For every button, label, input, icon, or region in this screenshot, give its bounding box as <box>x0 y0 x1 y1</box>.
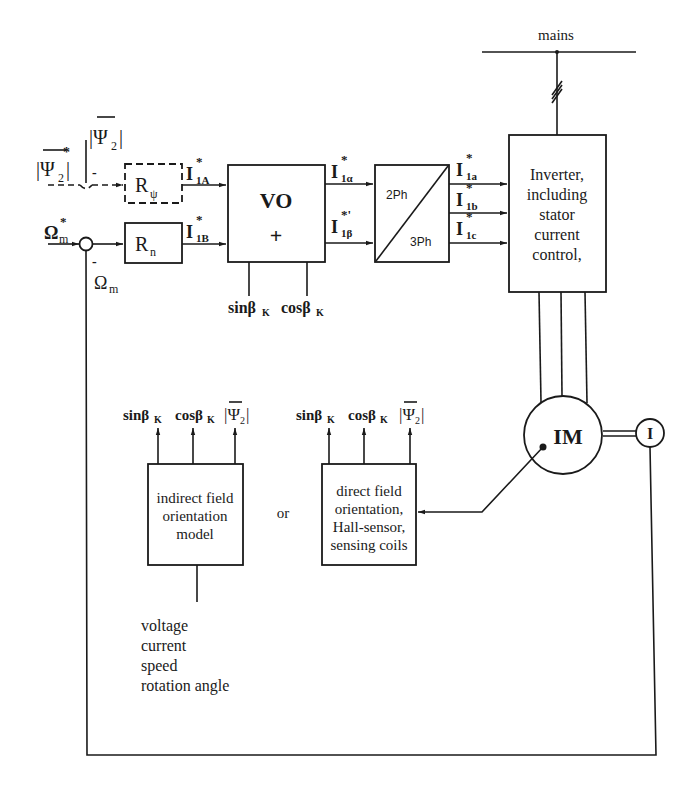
svg-text:3Ph: 3Ph <box>410 235 431 249</box>
svg-text:*: * <box>196 154 203 169</box>
svg-text:speed: speed <box>141 657 177 675</box>
svg-text:Ω: Ω <box>94 273 107 293</box>
svg-text:I: I <box>456 190 463 210</box>
svg-text:current: current <box>141 637 187 654</box>
svg-text:I: I <box>331 217 338 237</box>
signal-i1A: I 1A * <box>186 154 210 186</box>
svg-text:*: * <box>63 145 70 160</box>
svg-text:2: 2 <box>58 171 64 185</box>
svg-text:I: I <box>186 222 193 242</box>
phase-transform-block: 2Ph 3Ph <box>375 165 449 262</box>
svg-text:model: model <box>176 526 214 542</box>
svg-text:|: | <box>421 405 424 424</box>
flux-feedback-sign: - <box>92 165 97 180</box>
signal-i1a: I 1a * <box>456 150 478 182</box>
svg-text:2: 2 <box>240 415 245 426</box>
encoder: I <box>636 419 664 447</box>
svg-text:cosβ: cosβ <box>348 407 376 423</box>
svg-text:|Ψ: |Ψ <box>224 405 240 424</box>
svg-text:cosβ: cosβ <box>175 407 203 423</box>
svg-text:*: * <box>341 152 348 167</box>
vo-sin-input-label: sinβ K <box>228 299 270 318</box>
svg-text:K: K <box>380 414 388 425</box>
svg-text:direct field: direct field <box>336 483 402 499</box>
direct-output-labels: sinβ K cosβ K |Ψ 2 | <box>296 402 424 426</box>
svg-text:1c: 1c <box>466 229 477 241</box>
svg-text:orientation,: orientation, <box>335 501 404 517</box>
svg-text:2: 2 <box>111 139 117 153</box>
svg-text:R: R <box>135 174 149 196</box>
svg-text:I: I <box>647 425 653 442</box>
induction-motor: IM <box>524 396 602 474</box>
svg-text:stator: stator <box>539 206 575 223</box>
svg-text:2Ph: 2Ph <box>386 188 407 202</box>
inverter-block: Inverter, including stator current contr… <box>509 135 606 292</box>
svg-text:|Ψ: |Ψ <box>36 158 55 181</box>
speed-reference-label: Ω m * <box>44 214 69 246</box>
svg-text:2: 2 <box>415 415 420 426</box>
svg-text:current: current <box>534 226 580 243</box>
svg-text:|: | <box>119 126 123 149</box>
svg-text:n: n <box>150 245 156 259</box>
svg-text:K: K <box>262 307 270 318</box>
flux-controller-block: R ψ <box>125 164 182 203</box>
vector-rotator-block: VO + <box>228 165 325 262</box>
flux-reference-path: |Ψ 2 | * |Ψ 2 | - <box>36 117 123 189</box>
svg-text:1A: 1A <box>196 174 210 186</box>
svg-text:*: * <box>60 214 67 229</box>
svg-text:K: K <box>154 414 162 425</box>
svg-text:+: + <box>270 223 283 248</box>
indirect-field-model-block: indirect field orientation model <box>148 464 243 565</box>
signal-i1beta: I 1β *' <box>331 207 353 239</box>
svg-text:1β: 1β <box>341 227 353 239</box>
svg-text:IM: IM <box>553 424 583 449</box>
speed-feedback-sign: - <box>92 254 97 269</box>
speed-feedback-label: Ω m <box>94 273 119 296</box>
svg-text:sinβ: sinβ <box>228 299 256 317</box>
svg-text:ψ: ψ <box>150 187 158 201</box>
svg-text:*: * <box>466 180 473 195</box>
speed-controller-block: R n <box>125 223 182 263</box>
svg-text:I: I <box>456 219 463 239</box>
svg-text:rotation angle: rotation angle <box>141 677 229 695</box>
svg-text:indirect field: indirect field <box>156 490 234 506</box>
svg-text:orientation: orientation <box>163 508 228 524</box>
svg-text:|: | <box>246 405 249 424</box>
mains-bus: mains <box>482 27 636 135</box>
svg-text:|Ψ: |Ψ <box>399 405 415 424</box>
svg-text:K: K <box>207 414 215 425</box>
svg-text:including: including <box>527 186 587 204</box>
field-orientation-block-diagram: mains |Ψ 2 | * |Ψ 2 | - <box>0 0 699 792</box>
svg-text:1α: 1α <box>341 172 354 184</box>
svg-text:R: R <box>135 233 149 255</box>
svg-text:VO: VO <box>260 188 293 213</box>
svg-text:|Ψ: |Ψ <box>89 126 108 149</box>
vo-cos-input-label: cosβ K <box>281 299 324 318</box>
svg-text:sinβ: sinβ <box>123 407 149 423</box>
svg-text:control,: control, <box>532 246 581 263</box>
svg-text:sensing coils: sensing coils <box>330 537 407 553</box>
svg-text:*': *' <box>341 207 351 222</box>
speed-summing-junction <box>80 238 93 251</box>
svg-text:cosβ: cosβ <box>281 299 311 317</box>
svg-text:*: * <box>466 209 473 224</box>
svg-text:Ω: Ω <box>44 223 58 243</box>
svg-text:I: I <box>186 164 193 184</box>
flux-feedback-label: |Ψ 2 | <box>89 117 123 153</box>
svg-text:sinβ: sinβ <box>296 407 322 423</box>
indirect-output-labels: sinβ K cosβ K |Ψ 2 | <box>123 402 249 426</box>
or-label: or <box>277 505 290 521</box>
svg-text:*: * <box>196 212 203 227</box>
svg-text:1B: 1B <box>196 232 210 244</box>
svg-text:m: m <box>109 282 119 296</box>
svg-text:K: K <box>327 414 335 425</box>
signal-i1alpha: I 1α * <box>331 152 354 184</box>
indirect-model-inputs: voltage current speed rotation angle <box>141 617 229 695</box>
signal-i1B: I 1B * <box>186 212 210 244</box>
svg-text:*: * <box>466 150 473 165</box>
svg-text:Inverter,: Inverter, <box>530 166 584 183</box>
svg-text:K: K <box>316 307 324 318</box>
direct-field-orientation-block: direct field orientation, Hall-sensor, s… <box>322 464 416 565</box>
svg-text:Hall-sensor,: Hall-sensor, <box>333 519 405 535</box>
svg-text:voltage: voltage <box>141 617 188 635</box>
